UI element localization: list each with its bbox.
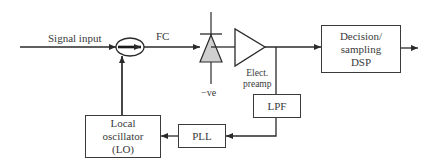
lpf-block: LPF [253,94,301,118]
pll-block: PLL [178,124,226,148]
lpf-block-label: LPF [268,100,287,113]
dsp-block: Decision/ sampling DSP [321,25,401,73]
signal-input-label: Signal input [48,32,101,44]
amplifier-icon [235,29,265,66]
fiber-coupler-icon [116,38,144,56]
lo-block-line2: oscillator [103,130,144,143]
negative-bias-label: −ve [201,87,216,99]
preamp-label-line2: preamp [243,79,272,90]
preamp-label: Elect. preamp [243,68,272,90]
dsp-block-line3: DSP [351,56,371,69]
photodiode-icon [200,12,222,84]
lo-block-line3: (LO) [112,143,134,156]
pll-block-label: PLL [192,130,212,143]
preamp-label-line1: Elect. [243,68,272,79]
lo-block-line1: Local [110,117,135,130]
local-oscillator-block: Local oscillator (LO) [85,115,161,158]
dsp-block-line1: Decision/ [340,30,382,43]
dsp-block-line2: sampling [341,43,381,56]
lpf-to-pll-line [226,117,276,136]
fc-label: FC [156,30,169,42]
